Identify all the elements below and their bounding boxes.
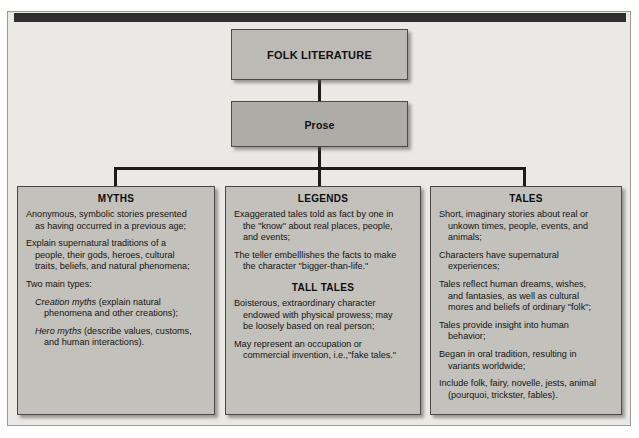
branch-entry: Boisterous, extraordinary characterendow… [234, 298, 412, 333]
diagram-page: FOLK LITERATURE Prose MYTHSAnonymous, sy… [0, 0, 639, 438]
node-prose-label: Prose [232, 102, 407, 148]
connector-root-to-prose [318, 80, 321, 101]
node-tales: TALESShort, imaginary stories about real… [430, 186, 622, 415]
branch-entry: Hero myths (describe values, customs,and… [26, 326, 206, 349]
branch-entry: Anonymous, symbolic stories presentedas … [26, 209, 206, 232]
connector-drop-tales [523, 167, 526, 187]
branch-heading: TALES [439, 193, 613, 204]
node-myths: MYTHSAnonymous, symbolic stories present… [17, 186, 215, 415]
header-bar [14, 13, 626, 22]
connector-prose-down [318, 147, 321, 169]
branch-entry: May represent an occupation orcommercial… [234, 339, 412, 362]
connector-drop-legends [318, 167, 321, 187]
branch-entry: Creation myths (explain naturalphenomena… [26, 297, 206, 320]
branch-entry: Include folk, fairy, novelle, jests, ani… [439, 378, 613, 401]
branch-entry: Exaggerated tales told as fact by one in… [234, 209, 412, 244]
branch-entry: Short, imaginary stories about real orun… [439, 209, 613, 244]
node-prose: Prose [231, 101, 408, 147]
node-folk-literature: FOLK LITERATURE [231, 29, 408, 80]
branch-entry: Characters have supernaturalexperiences; [439, 250, 613, 273]
branch-entry: Two main types: [26, 279, 206, 291]
node-tales-content: TALESShort, imaginary stories about real… [431, 187, 621, 411]
entry-emphasis: Hero myths [35, 326, 82, 336]
branch-subheading: TALL TALES [234, 282, 412, 293]
node-legends: LEGENDSExaggerated tales told as fact by… [225, 186, 421, 415]
branch-entry: The teller embelllishes the facts to mak… [234, 250, 412, 273]
entry-emphasis: Creation myths [35, 297, 96, 307]
branch-entry: Tales provide insight into humanbehavior… [439, 320, 613, 343]
branch-entry: Began in oral tradition, resulting invar… [439, 349, 613, 372]
branch-entry: Tales reflect human dreams, wishes,and f… [439, 279, 613, 314]
connector-drop-myths [114, 167, 117, 187]
node-legends-content: LEGENDSExaggerated tales told as fact by… [226, 187, 420, 372]
branch-heading: MYTHS [26, 193, 206, 204]
branch-entry: Explain supernatural traditions of apeop… [26, 238, 206, 273]
node-myths-content: MYTHSAnonymous, symbolic stories present… [18, 187, 214, 359]
branch-heading: LEGENDS [234, 193, 412, 204]
node-folk-literature-label: FOLK LITERATURE [232, 30, 407, 81]
